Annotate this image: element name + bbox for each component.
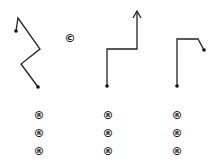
registered-symbol: ® <box>170 110 184 121</box>
zigzag-start-dot <box>14 29 18 33</box>
registered-symbol: ® <box>101 128 115 139</box>
hook-start-dot <box>175 84 179 88</box>
hook-end-dot <box>202 48 206 52</box>
zigzag-end-dot <box>36 85 40 89</box>
registered-symbol: ® <box>32 110 46 121</box>
registered-symbol: ® <box>32 146 46 157</box>
registered-symbol: ® <box>170 146 184 157</box>
step-arrow-path <box>107 12 137 86</box>
registered-symbol: ® <box>101 146 115 157</box>
registered-symbol: ® <box>32 128 46 139</box>
hook-path <box>177 39 204 86</box>
step-start-dot <box>105 84 109 88</box>
registered-symbol: ® <box>101 110 115 121</box>
copyright-symbol: © <box>63 33 77 44</box>
registered-symbol: ® <box>170 128 184 139</box>
zigzag-path <box>16 18 40 87</box>
